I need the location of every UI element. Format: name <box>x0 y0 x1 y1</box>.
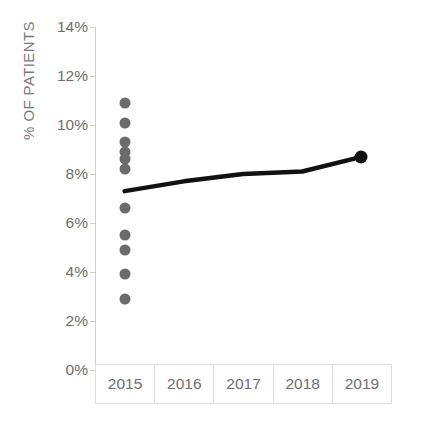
trend-endpoint-marker <box>355 150 368 163</box>
y-axis-tick-mark <box>90 223 96 224</box>
data-point <box>119 97 130 108</box>
data-point <box>119 230 130 241</box>
x-axis-tick-label-2018: 2018 <box>273 365 332 403</box>
y-axis-tick-mark <box>90 321 96 322</box>
y-axis-tick-mark <box>90 125 96 126</box>
data-point <box>119 244 130 255</box>
x-axis-tick-label-2016: 2016 <box>154 365 213 403</box>
x-axis-year-labels: 20152016201720182019 <box>95 364 392 404</box>
y-axis-tick-mark <box>90 174 96 175</box>
data-point <box>119 117 130 128</box>
y-axis-tick-label: 6% <box>36 214 88 232</box>
y-axis-tick-mark <box>90 76 96 77</box>
data-point <box>119 293 130 304</box>
y-axis-tick-label: 2% <box>36 312 88 330</box>
plot-area <box>95 20 391 377</box>
y-axis-tick-mark <box>90 272 96 273</box>
y-axis-tick-label: 0% <box>36 361 88 379</box>
trend-line <box>95 20 391 377</box>
x-axis-tick-label-2019: 2019 <box>332 365 391 403</box>
data-point <box>119 269 130 280</box>
y-axis-tick-label: 4% <box>36 263 88 281</box>
y-axis-tick-label: 14% <box>36 18 88 36</box>
x-axis-tick-label-2017: 2017 <box>213 365 272 403</box>
data-point <box>119 164 130 175</box>
y-axis-tick-mark <box>90 27 96 28</box>
data-point <box>119 203 130 214</box>
chart-container: % OF PATIENTS 14%12%10%8%6%4%2%0% 201520… <box>0 0 422 427</box>
y-axis-tick-label: 12% <box>36 67 88 85</box>
x-axis-tick-label-2015: 2015 <box>95 365 154 403</box>
y-axis-tick-labels: 14%12%10%8%6%4%2%0% <box>32 0 88 427</box>
y-axis-tick-label: 10% <box>36 116 88 134</box>
y-axis-tick-label: 8% <box>36 165 88 183</box>
